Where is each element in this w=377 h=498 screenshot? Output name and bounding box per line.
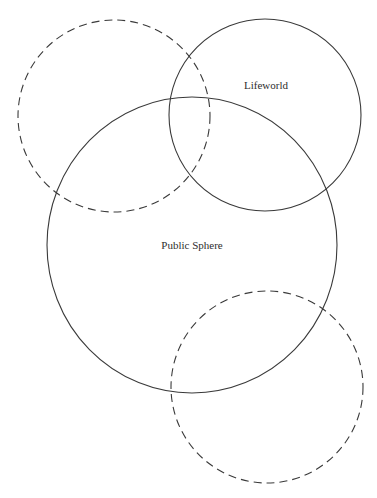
shapes-layer	[18, 19, 363, 483]
lifeworld-circle	[169, 19, 361, 211]
unlabeled-bottom-right-circle	[171, 291, 363, 483]
venn-diagram: Lifeworld Public Sphere	[0, 0, 377, 498]
public-sphere-label: Public Sphere	[161, 239, 223, 251]
labels-layer: Lifeworld Public Sphere	[161, 79, 288, 251]
lifeworld-label: Lifeworld	[244, 79, 288, 91]
unlabeled-top-left-circle	[18, 20, 210, 212]
